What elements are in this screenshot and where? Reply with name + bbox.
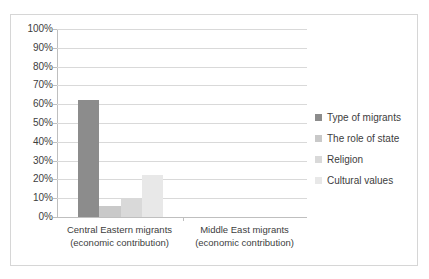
category-label-line-2: (economic contribution) [182,236,307,249]
legend-label: Religion [327,154,363,165]
y-axis-tick-mark [53,198,57,199]
x-axis-baseline [57,217,307,218]
y-axis-tick-label: 90% [15,43,53,53]
legend-label: Cultural values [327,175,393,186]
legend-label: The role of state [327,133,399,144]
legend-item: Type of migrants [315,107,415,128]
legend-swatch-icon [315,135,322,142]
legend-swatch-icon [315,177,322,184]
legend-swatch-icon [315,156,322,163]
bar-series-group [58,29,307,217]
category-label-line-1: Central Eastern migrants [57,223,182,236]
y-axis-tick-label: 40% [15,137,53,147]
legend-item: Religion [315,149,415,170]
y-axis-tick-label: 70% [15,80,53,90]
y-axis-tick-mark [53,142,57,143]
y-axis-tick-mark [53,161,57,162]
y-axis-tick-label: 80% [15,62,53,72]
y-axis-tick-mark [53,217,57,218]
x-axis-category-tick [183,217,184,221]
y-axis-tick-label: 50% [15,118,53,128]
y-axis-tick-mark [53,179,57,180]
category-label-line-1: Middle East migrants [182,223,307,236]
plot-area [57,29,307,217]
x-axis-category-labels: Central Eastern migrants(economic contri… [57,223,307,257]
y-axis-tick-mark [53,85,57,86]
bar [99,206,120,217]
y-axis-tick-label: 10% [15,193,53,203]
y-axis-tick-mark [53,104,57,105]
y-axis-tick-mark [53,123,57,124]
legend-item: Cultural values [315,170,415,191]
x-axis-category-label: Central Eastern migrants(economic contri… [57,223,182,249]
bar [121,199,142,217]
y-axis-tick-label: 60% [15,99,53,109]
y-axis-tick-labels: 100%90%80%70%60%50%40%30%20%10%0% [15,29,53,217]
chart-figure: 100%90%80%70%60%50%40%30%20%10%0% Centra… [10,14,418,266]
chart-legend: Type of migrantsThe role of stateReligio… [315,107,415,191]
bar [78,100,99,217]
x-axis-category-label: Middle East migrants(economic contributi… [182,223,307,249]
legend-label: Type of migrants [327,112,401,123]
y-axis-tick-label: 30% [15,156,53,166]
y-axis-tick-mark [53,67,57,68]
category-label-line-2: (economic contribution) [57,236,182,249]
legend-swatch-icon [315,114,322,121]
y-axis-tick-label: 20% [15,174,53,184]
y-axis-tick-mark [53,48,57,49]
y-axis-tick-label: 100% [15,24,53,34]
y-axis-tick-mark [53,29,57,30]
y-axis-tick-label: 0% [15,212,53,222]
legend-item: The role of state [315,128,415,149]
bar [142,175,163,217]
